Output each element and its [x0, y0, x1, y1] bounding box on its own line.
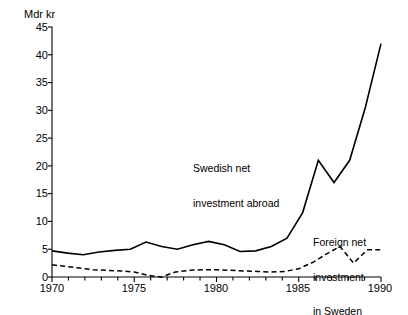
axis-lines — [52, 27, 381, 277]
chart-plot-area — [0, 0, 408, 315]
y-axis-ticks — [48, 27, 52, 277]
x-axis-ticks — [52, 277, 381, 282]
chart-container: Mdr kr 45 40 35 30 25 20 15 10 5 0 1970 … — [0, 0, 408, 315]
series-line-swedish-net-investment-abroad — [52, 44, 381, 255]
